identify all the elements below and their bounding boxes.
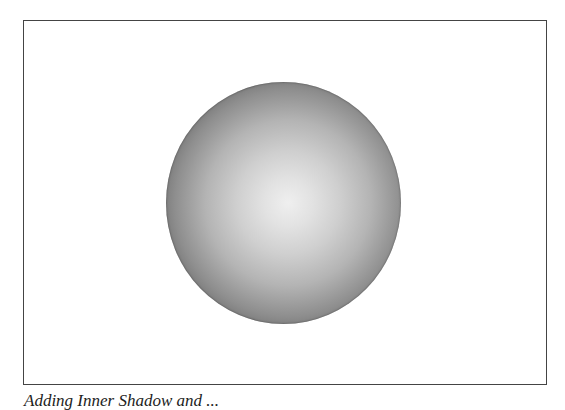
figure-caption: Adding Inner Shadow and ... <box>24 392 219 409</box>
shaded-sphere <box>166 82 401 324</box>
